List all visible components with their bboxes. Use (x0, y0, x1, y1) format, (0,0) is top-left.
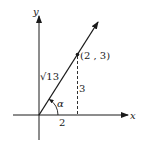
angle-label: α (57, 98, 64, 109)
vector-arrow (39, 22, 98, 115)
y-axis-label: y (32, 6, 39, 17)
horizontal-leg-label: 2 (59, 117, 65, 128)
x-axis-label: x (130, 110, 136, 121)
point-marker (76, 53, 80, 57)
vertical-leg-label: 3 (79, 83, 85, 94)
hypotenuse-label: √13 (40, 71, 59, 82)
point-label: (2 , 3) (80, 50, 110, 61)
diagram-canvas: y x (2 , 3) √13 3 2 α (0, 0, 143, 145)
